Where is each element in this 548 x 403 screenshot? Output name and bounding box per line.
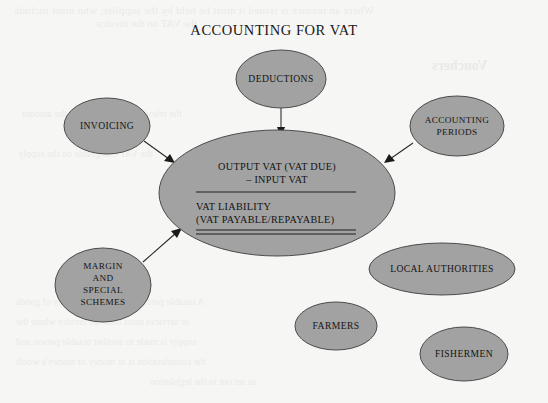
node-deductions[interactable]: DEDUCTIONS [236,50,326,108]
vat-accounting-diagram: DEDUCTIONS INVOICING ACCOUNTING PERIODS … [0,0,548,403]
node-accounting-periods[interactable]: ACCOUNTING PERIODS [410,96,504,156]
diagram-page: Where an invoice is issued it must be he… [0,0,548,403]
node-margin-schemes-label-line-4: SCHEMES [80,297,125,307]
node-invoicing[interactable]: INVOICING [64,98,150,154]
connector-margin-schemes-to-center [143,228,182,262]
node-accounting-periods-label-line-2: PERIODS [436,127,477,137]
node-vat-liability-formula[interactable]: OUTPUT VAT (VAT DUE) – INPUT VAT VAT LIA… [159,130,395,256]
node-farmers-label: FARMERS [313,320,360,331]
arrowhead-down-left-icon [384,154,395,163]
formula-numerator-line-2: – INPUT VAT [245,174,308,185]
node-margin-and-special-schemes[interactable]: MARGIN AND SPECIAL SCHEMES [55,248,151,322]
node-deductions-label: DEDUCTIONS [248,73,313,84]
connector-invoicing-to-center [144,141,175,163]
formula-numerator-line-1: OUTPUT VAT (VAT DUE) [218,161,336,173]
node-local-authorities-label: LOCAL AUTHORITIES [390,263,494,274]
node-margin-schemes-label-line-1: MARGIN [83,261,123,271]
node-invoicing-label: INVOICING [80,120,134,131]
node-margin-schemes-label-line-2: AND [92,273,113,283]
node-margin-schemes-label-line-3: SPECIAL [83,285,123,295]
formula-result-line-2: (VAT PAYABLE/REPAYABLE) [196,214,334,226]
formula-result-line-1: VAT LIABILITY [196,201,271,212]
node-fishermen[interactable]: FISHERMEN [420,327,508,381]
arrowhead-down-right-icon [164,154,175,163]
node-local-authorities[interactable]: LOCAL AUTHORITIES [369,243,515,295]
node-fishermen-label: FISHERMEN [435,348,493,359]
node-farmers[interactable]: FARMERS [295,302,377,350]
node-accounting-periods-label-line-1: ACCOUNTING [425,115,490,125]
connector-accounting-periods-to-center [384,143,413,163]
